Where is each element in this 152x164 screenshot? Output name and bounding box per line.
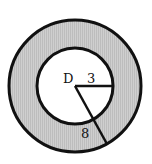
annulus-diagram: D 3 8 xyxy=(0,0,152,164)
inner-radius-label: 3 xyxy=(87,71,95,86)
outer-radius-label: 8 xyxy=(81,126,89,141)
center-label: D xyxy=(63,71,73,86)
